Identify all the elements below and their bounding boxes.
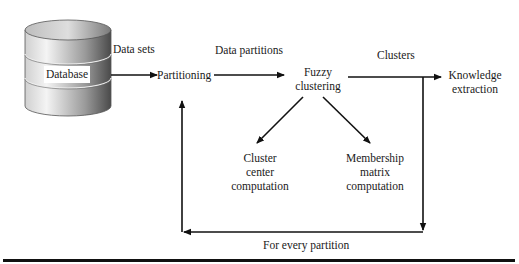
edge-label-data-sets: Data sets: [113, 42, 155, 56]
node-knowledge-extraction: Knowledge extraction: [445, 68, 505, 96]
node-membership-line2: matrix: [338, 165, 412, 179]
arrow-fuzzy-to-membership: [323, 97, 370, 143]
node-fuzzy-clustering: Fuzzy clustering: [287, 65, 349, 93]
node-membership-line3: computation: [338, 179, 412, 193]
node-membership-line1: Membership: [338, 151, 412, 165]
node-cluster-center-line3: computation: [225, 179, 295, 193]
node-cluster-center-computation: Cluster center computation: [225, 151, 295, 193]
node-cluster-center-line1: Cluster: [225, 151, 295, 165]
bottom-rule-divider: [3, 259, 515, 262]
node-fuzzy-clustering-line2: clustering: [287, 79, 349, 93]
node-knowledge-extraction-line1: Knowledge: [445, 68, 505, 82]
node-fuzzy-clustering-line1: Fuzzy: [287, 65, 349, 79]
edge-label-data-partitions: Data partitions: [215, 43, 283, 57]
edge-label-for-every-partition: For every partition: [263, 238, 349, 252]
node-membership-matrix-computation: Membership matrix computation: [338, 151, 412, 193]
node-partitioning: Partitioning: [157, 68, 211, 82]
node-cluster-center-line2: center: [225, 165, 295, 179]
flow-arrows: [0, 0, 519, 264]
node-knowledge-extraction-line2: extraction: [445, 82, 505, 96]
arrow-fuzzy-to-cluster-center: [257, 97, 303, 143]
edge-label-clusters: Clusters: [377, 48, 415, 62]
